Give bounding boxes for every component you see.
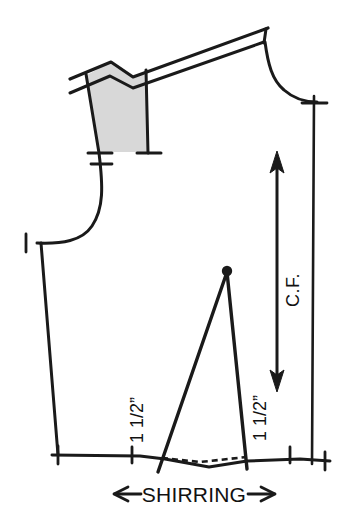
pattern-diagram-root: C.F. 1 1/2” 1 1/2” SHIRRING <box>0 0 351 531</box>
measure-left-label: 1 1/2” <box>127 397 147 443</box>
shirring-label: SHIRRING <box>142 483 246 506</box>
diagram-background <box>0 0 351 531</box>
facing-panel-right-edge <box>146 70 148 153</box>
center-front-label: C.F. <box>283 273 303 307</box>
dart-apex-dot <box>222 266 232 276</box>
measure-right-label: 1 1/2” <box>250 395 270 441</box>
pattern-drawing: C.F. 1 1/2” 1 1/2” SHIRRING <box>0 0 351 531</box>
